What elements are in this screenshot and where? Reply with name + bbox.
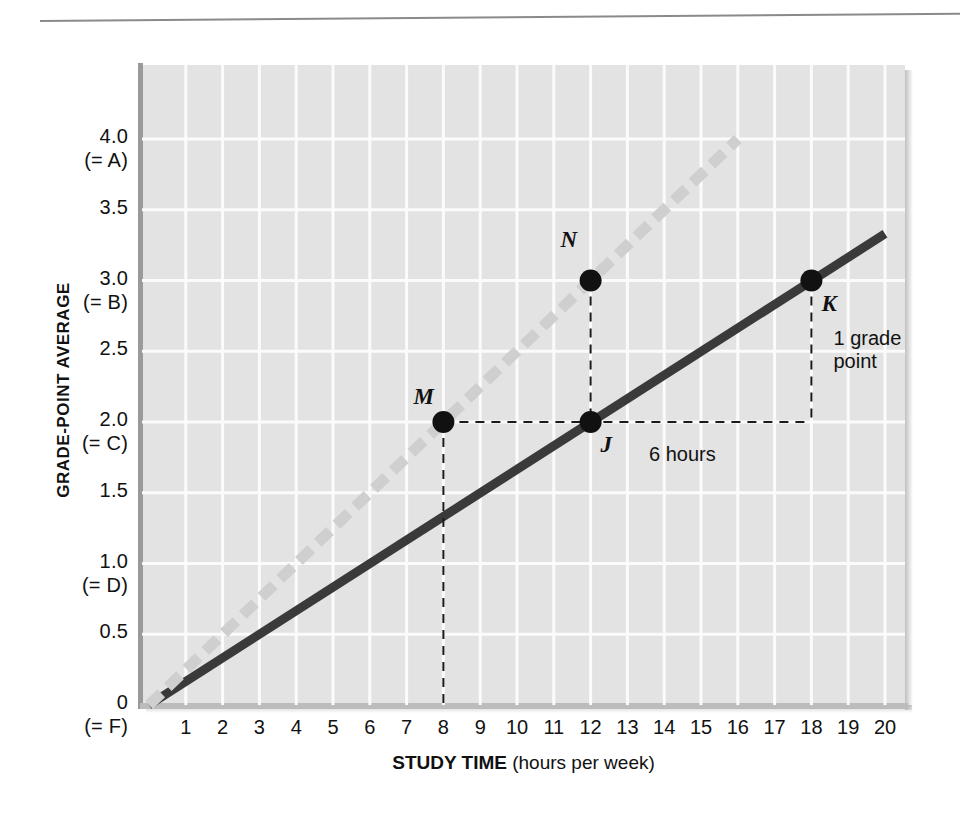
annotation-rise: 1 gradepoint: [833, 327, 901, 373]
annotation-rise-line-2: point: [833, 350, 901, 373]
y-tick-value: 1.5: [100, 479, 128, 501]
x-axis-title-unit: (hours per week): [507, 752, 655, 773]
x-tick-10: 10: [497, 716, 537, 739]
y-tick-0: 0(= F): [8, 690, 128, 738]
annotation-run: 6 hours: [649, 443, 716, 466]
y-tick-value: 1.0: [100, 550, 128, 572]
y-tick-0-5: 0.5: [8, 619, 128, 643]
y-tick-grade: (= A): [8, 148, 128, 172]
data-point-J: [580, 411, 602, 433]
y-tick-3-5: 3.5: [8, 195, 128, 219]
y-tick-value: 4.0: [100, 125, 128, 147]
x-tick-6: 6: [350, 716, 390, 739]
y-tick-value: 0.5: [100, 620, 128, 642]
y-tick-value: 3.0: [100, 267, 128, 289]
y-tick-grade: (= D): [8, 573, 128, 597]
point-label-K: K: [821, 291, 836, 317]
y-tick-value: 0: [117, 691, 128, 713]
y-tick-1-0: 1.0(= D): [8, 549, 128, 597]
y-tick-4-0: 4.0(= A): [8, 124, 128, 172]
annotation-rise-line-1: 1 grade: [833, 327, 901, 350]
x-tick-19: 19: [828, 716, 868, 739]
x-tick-1: 1: [166, 716, 206, 739]
x-tick-17: 17: [755, 716, 795, 739]
x-tick-11: 11: [534, 716, 574, 739]
data-point-M: [432, 411, 454, 433]
x-tick-13: 13: [607, 716, 647, 739]
data-point-K: [800, 270, 822, 292]
x-tick-14: 14: [644, 716, 684, 739]
point-label-M: M: [413, 384, 433, 410]
x-tick-3: 3: [239, 716, 279, 739]
y-axis-title: GRADE-POINT AVERAGE: [54, 240, 74, 540]
y-tick-grade: (= F): [8, 714, 128, 738]
x-tick-5: 5: [313, 716, 353, 739]
x-tick-2: 2: [203, 716, 243, 739]
x-tick-20: 20: [865, 716, 905, 739]
x-tick-4: 4: [276, 716, 316, 739]
point-label-N: N: [561, 227, 578, 253]
x-tick-16: 16: [718, 716, 758, 739]
x-tick-8: 8: [423, 716, 463, 739]
x-tick-7: 7: [387, 716, 427, 739]
point-label-J: J: [601, 432, 613, 458]
data-layer: [0, 0, 960, 813]
x-axis-title: STUDY TIME (hours per week): [142, 752, 905, 774]
x-tick-9: 9: [460, 716, 500, 739]
x-tick-15: 15: [681, 716, 721, 739]
y-tick-value: 2.5: [100, 337, 128, 359]
x-tick-18: 18: [791, 716, 831, 739]
data-point-N: [580, 270, 602, 292]
x-axis-title-bold: STUDY TIME: [392, 752, 507, 773]
figure-container: 0(= F)0.51.0(= D)1.52.0(= C)2.53.0(= B)3…: [0, 0, 960, 813]
series-solid-line: [149, 234, 885, 705]
x-tick-12: 12: [571, 716, 611, 739]
y-tick-value: 2.0: [100, 408, 128, 430]
y-tick-value: 3.5: [100, 196, 128, 218]
